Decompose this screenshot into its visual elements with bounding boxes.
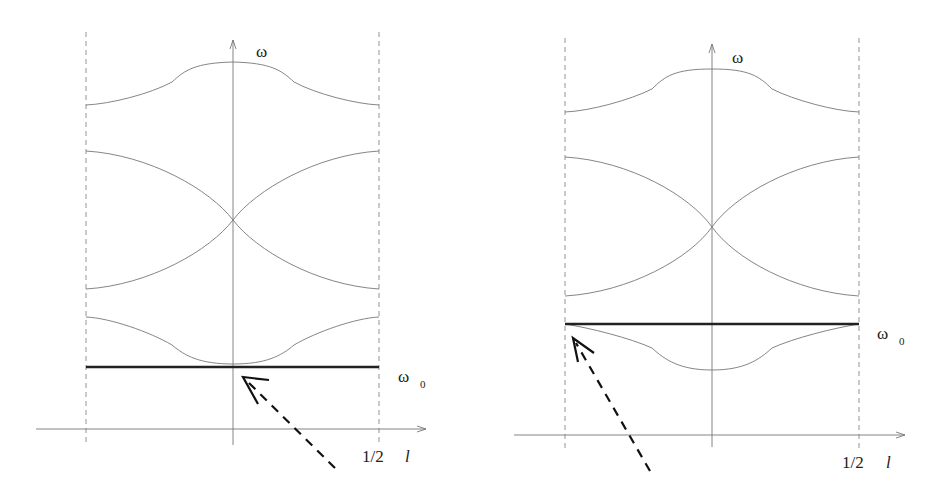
x-axis-label: l — [886, 453, 891, 472]
omega0-label: ω — [877, 324, 888, 343]
x-tick-label: 1/2 — [842, 453, 864, 472]
band-top — [86, 62, 379, 105]
arrow-head-icon — [573, 338, 594, 362]
y-axis-label: ω — [732, 48, 743, 67]
x-tick-label: 1/2 — [362, 447, 384, 466]
band-lowest — [86, 317, 379, 364]
band-crossing-2 — [86, 151, 379, 289]
omega0-label: ω — [398, 367, 409, 386]
arrow-shaft — [576, 343, 650, 471]
x-axis-label: l — [405, 447, 410, 466]
arrow-shaft — [246, 380, 335, 468]
band-structure-figure: ω ω 0 1/2 l ω ω 0 1/2 l — [0, 0, 946, 498]
left-panel: ω ω 0 1/2 l — [36, 32, 426, 468]
omega0-subscript: 0 — [899, 335, 905, 347]
omega0-subscript: 0 — [420, 378, 426, 390]
right-panel: ω ω 0 1/2 l — [514, 38, 905, 472]
y-axis-label: ω — [256, 42, 267, 61]
